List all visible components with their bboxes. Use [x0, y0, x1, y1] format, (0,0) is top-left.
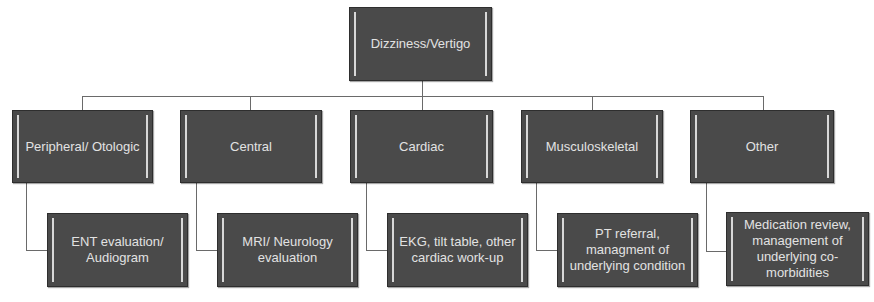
category-node-peripheral-otologic: Peripheral/ Otologic	[12, 110, 153, 183]
connector-drop-cardiac	[422, 96, 423, 110]
connector-elbow-musculoskeletal-h	[536, 250, 557, 251]
action-node-medication-review: Medication review, management of underly…	[726, 212, 869, 286]
category-node-other: Other	[690, 110, 834, 183]
diagnostic-tree-diagram: Dizziness/Vertigo Peripheral/ Otologic C…	[0, 0, 874, 302]
root-node-label: Dizziness/Vertigo	[371, 36, 471, 52]
connector-root-down	[422, 81, 423, 96]
connector-elbow-peripheral-h	[26, 250, 47, 251]
action-node-cardiac-workup: EKG, tilt table, other cardiac work-up	[387, 213, 528, 287]
category-label: Musculoskeletal	[546, 139, 639, 155]
connector-elbow-other-v	[706, 183, 707, 251]
category-label: Other	[746, 139, 779, 155]
action-label: PT referral, managment of underlying con…	[570, 226, 686, 274]
action-label: Medication review, management of underly…	[744, 217, 851, 281]
connector-drop-central	[250, 96, 251, 110]
action-label: EKG, tilt table, other cardiac work-up	[399, 234, 515, 266]
action-label: MRI/ Neurology evaluation	[242, 234, 332, 266]
action-node-pt-referral: PT referral, managment of underlying con…	[557, 213, 698, 287]
category-node-musculoskeletal: Musculoskeletal	[521, 110, 663, 183]
category-node-central: Central	[180, 110, 322, 183]
connector-elbow-central-v	[196, 183, 197, 250]
category-label: Central	[230, 139, 272, 155]
connector-elbow-peripheral-v	[26, 183, 27, 250]
root-node-dizziness-vertigo: Dizziness/Vertigo	[349, 7, 492, 81]
connector-bus	[82, 96, 764, 97]
connector-drop-other	[763, 96, 764, 110]
category-label: Cardiac	[399, 139, 444, 155]
connector-drop-musculoskeletal	[592, 96, 593, 110]
connector-elbow-cardiac-v	[366, 183, 367, 250]
action-node-mri-neurology: MRI/ Neurology evaluation	[217, 213, 358, 287]
connector-elbow-other-h	[706, 251, 726, 252]
connector-elbow-central-h	[196, 250, 217, 251]
category-label: Peripheral/ Otologic	[25, 139, 139, 155]
action-label: ENT evaluation/ Audiogram	[71, 234, 163, 266]
connector-elbow-musculoskeletal-v	[536, 183, 537, 250]
connector-elbow-cardiac-h	[366, 250, 387, 251]
category-node-cardiac: Cardiac	[350, 110, 493, 183]
connector-drop-peripheral	[82, 96, 83, 110]
action-node-ent-evaluation: ENT evaluation/ Audiogram	[47, 213, 188, 287]
